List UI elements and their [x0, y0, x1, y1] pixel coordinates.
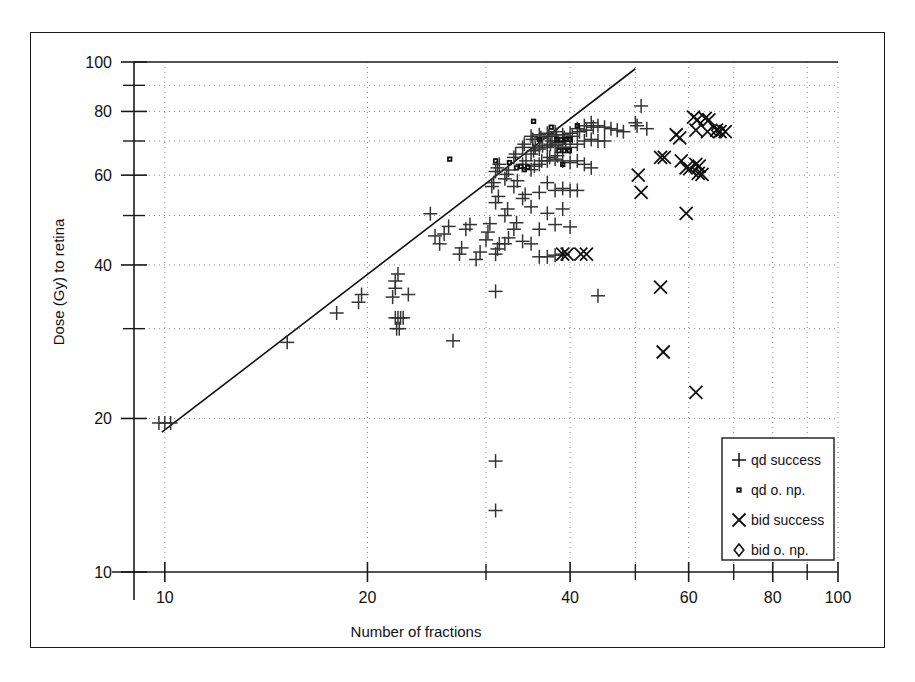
x-tick-label: 80 — [764, 589, 782, 606]
y-tick-label: 10 — [94, 564, 112, 581]
data-point-square — [562, 149, 566, 153]
y-tick-label: 100 — [85, 54, 112, 71]
x-tick-label: 40 — [561, 589, 579, 606]
data-point-square — [549, 125, 553, 129]
data-point-square — [515, 166, 519, 170]
data-point-square — [494, 159, 498, 163]
data-point-square — [532, 120, 536, 124]
x-tick-label: 100 — [825, 589, 852, 606]
figure-container: 10204060801001020406080100Number of frac… — [0, 0, 915, 682]
legend-label[interactable]: qd o. np. — [751, 482, 806, 498]
data-point-square — [557, 149, 561, 153]
scatter-plot: 10204060801001020406080100Number of frac… — [0, 0, 915, 682]
data-point-square — [448, 157, 452, 161]
x-tick-label: 60 — [680, 589, 698, 606]
data-point-square — [526, 165, 530, 169]
data-point-square — [508, 161, 512, 165]
legend-label[interactable]: bid o. np. — [751, 542, 809, 558]
y-tick-label: 60 — [94, 167, 112, 184]
x-tick-label: 20 — [359, 589, 377, 606]
x-tick-label: 10 — [156, 589, 174, 606]
y-tick-label: 40 — [94, 257, 112, 274]
data-point-square — [559, 138, 563, 142]
y-axis-title: Dose (Gy) to retina — [50, 218, 67, 345]
y-tick-label: 20 — [94, 410, 112, 427]
x-axis-title: Number of fractions — [351, 623, 482, 640]
legend-label[interactable]: qd success — [751, 452, 821, 468]
y-tick-label: 80 — [94, 103, 112, 120]
legend-label[interactable]: bid success — [751, 512, 824, 528]
